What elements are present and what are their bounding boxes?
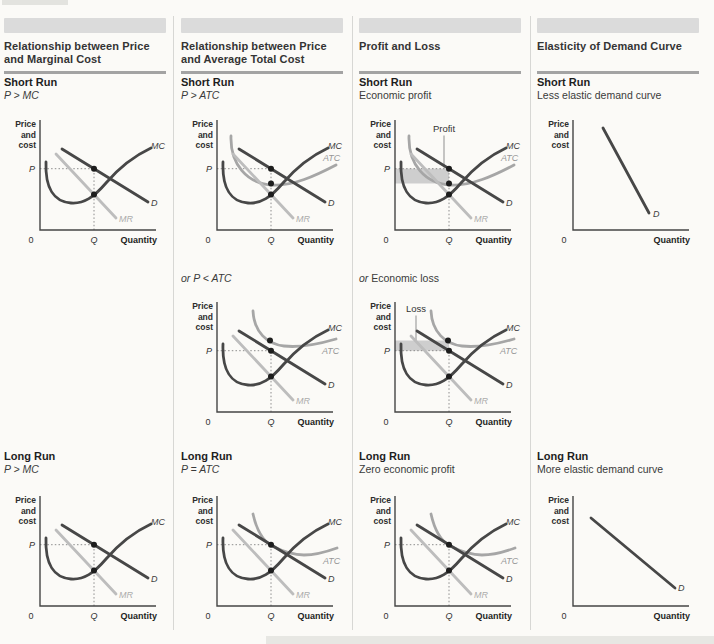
axes bbox=[40, 120, 156, 230]
d-label: D bbox=[151, 574, 158, 584]
atc-label: ATC bbox=[500, 556, 519, 566]
atc-label: ATC bbox=[322, 556, 341, 566]
equilibrium-dot-p bbox=[446, 542, 452, 548]
price-axis-label: and bbox=[198, 506, 213, 516]
q-tick-label: Q bbox=[445, 417, 452, 427]
demand-curve bbox=[591, 518, 675, 588]
title-rule bbox=[537, 71, 699, 74]
section-label-short-run: Short RunEconomic profit bbox=[359, 76, 521, 102]
column-price-average-total-cost: Relationship between Price and Average T… bbox=[181, 14, 343, 642]
monopolistic-competition-summary-figure: Relationship between Price and Marginal … bbox=[0, 0, 714, 644]
origin-label: 0 bbox=[205, 235, 210, 245]
demand-curve bbox=[603, 128, 649, 213]
atc-label: ATC bbox=[500, 153, 519, 163]
equilibrium-dot-mcmr bbox=[91, 568, 97, 574]
graph-price-marginal-cost-short-run: MCDMRPriceandcost0QPQuantity bbox=[4, 112, 166, 252]
section-label-long-run: Long RunP > MC bbox=[4, 450, 166, 476]
section-heading: Long Run bbox=[181, 450, 343, 463]
price-axis-label: Price bbox=[192, 495, 213, 505]
column-header-bar bbox=[4, 18, 166, 33]
price-axis-label: Price bbox=[370, 495, 391, 505]
d-label: D bbox=[506, 380, 513, 390]
column-elasticity-of-demand: Elasticity of Demand CurveShort RunLess … bbox=[537, 14, 699, 642]
atc-curve bbox=[431, 514, 515, 555]
mr-label: MR bbox=[296, 590, 310, 600]
equilibrium-dot-mcmr bbox=[268, 568, 274, 574]
origin-label: 0 bbox=[205, 417, 210, 427]
d-label: D bbox=[678, 583, 685, 593]
price-axis-label: and bbox=[376, 506, 391, 516]
price-axis-label: Price bbox=[370, 301, 391, 311]
origin-label: 0 bbox=[561, 611, 566, 621]
column-header-bar bbox=[359, 18, 521, 33]
atc-label: ATC bbox=[321, 346, 340, 356]
graph-profit-and-loss-short-run: MCATCDMRPriceandcost0QPQuantityProfit bbox=[359, 112, 521, 252]
origin-label: 0 bbox=[561, 235, 566, 245]
q-tick-label: Q bbox=[267, 417, 274, 427]
price-axis-label: and bbox=[198, 312, 213, 322]
title-rule bbox=[4, 71, 166, 74]
price-axis-label: Price bbox=[15, 119, 36, 129]
section-note: P = ATC bbox=[181, 463, 343, 476]
quantity-axis-label: Quantity bbox=[297, 611, 334, 621]
price-axis-label: Price bbox=[370, 119, 391, 129]
section-heading: Long Run bbox=[359, 450, 521, 463]
equilibrium-dot-mcmr bbox=[268, 374, 274, 380]
d-label: D bbox=[328, 380, 335, 390]
q-tick-label: Q bbox=[445, 235, 452, 245]
mr-label: MR bbox=[119, 590, 133, 600]
origin-label: 0 bbox=[383, 235, 388, 245]
graph-price-average-total-cost-mid-run: MCATCDMRPriceandcost0QPQuantity bbox=[181, 294, 343, 434]
q-tick-label: Q bbox=[267, 611, 274, 621]
section-heading: Short Run bbox=[537, 76, 699, 89]
section-label-long-run: Long RunP = ATC bbox=[181, 450, 343, 476]
section-note: More elastic demand curve bbox=[537, 463, 699, 476]
price-axis-label: and bbox=[198, 130, 213, 140]
column-title: Relationship between Price and Marginal … bbox=[4, 40, 166, 66]
origin-label: 0 bbox=[28, 235, 33, 245]
price-axis-label: Price bbox=[15, 495, 36, 505]
column-header-bar bbox=[537, 18, 699, 33]
price-axis-label: cost bbox=[374, 140, 392, 150]
d-label: D bbox=[151, 198, 158, 208]
section-label-long-run: Long RunMore elastic demand curve bbox=[537, 450, 699, 476]
origin-label: 0 bbox=[205, 611, 210, 621]
equilibrium-dot-p bbox=[91, 166, 97, 172]
quantity-axis-label: Quantity bbox=[653, 235, 690, 245]
section-heading: Short Run bbox=[181, 76, 343, 89]
equilibrium-dot-atcTop bbox=[445, 338, 451, 344]
graph-profit-and-loss-mid-run: MCATCDMRPriceandcost0QPQuantityLoss bbox=[359, 294, 521, 434]
column-title: Profit and Loss bbox=[359, 40, 521, 53]
mr-label: MR bbox=[296, 214, 310, 224]
equilibrium-dot-p bbox=[268, 348, 274, 354]
atc-curve bbox=[253, 311, 336, 347]
price-axis-label: cost bbox=[552, 516, 570, 526]
equilibrium-dot-mcmr bbox=[446, 192, 452, 198]
equilibrium-dot-p bbox=[446, 166, 452, 172]
column-profit-and-loss: Profit and LossShort RunEconomic profitM… bbox=[359, 14, 521, 642]
mc-label: MC bbox=[328, 141, 342, 151]
quantity-axis-label: Quantity bbox=[297, 417, 334, 427]
graph-price-average-total-cost-long-run: MCATCDMRPriceandcost0QPQuantity bbox=[181, 488, 343, 628]
q-tick-label: Q bbox=[90, 611, 97, 621]
q-tick-label: Q bbox=[90, 235, 97, 245]
title-rule bbox=[359, 71, 521, 74]
quantity-axis-label: Quantity bbox=[120, 235, 157, 245]
price-axis-label: and bbox=[376, 312, 391, 322]
price-axis-label: cost bbox=[196, 516, 214, 526]
equilibrium-dot-mcmr bbox=[446, 374, 452, 380]
origin-label: 0 bbox=[383, 417, 388, 427]
mc-label: MC bbox=[506, 323, 520, 333]
column-divider-2 bbox=[352, 16, 353, 630]
equilibrium-dot-atc bbox=[268, 181, 274, 187]
section-heading: Short Run bbox=[359, 76, 521, 89]
quantity-axis-label: Quantity bbox=[475, 235, 512, 245]
price-axis-label: Price bbox=[192, 119, 213, 129]
section-heading: Short Run bbox=[4, 76, 166, 89]
equilibrium-dot-mcmr bbox=[268, 192, 274, 198]
profit-annotation: Profit bbox=[433, 123, 456, 134]
equilibrium-dot-atcTop bbox=[267, 338, 273, 344]
mr-label: MR bbox=[474, 396, 488, 406]
axes bbox=[217, 302, 333, 412]
quantity-axis-label: Quantity bbox=[120, 611, 157, 621]
